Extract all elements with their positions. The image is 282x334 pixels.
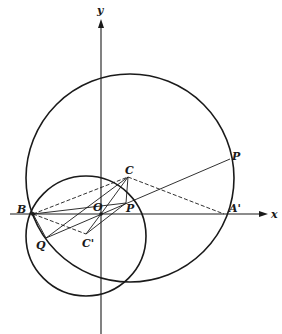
- label-O: O: [93, 201, 103, 214]
- label-x-axis: x: [270, 208, 278, 221]
- segment-C-P: [126, 177, 128, 203]
- y-axis-arrow-icon: [98, 19, 104, 28]
- label-B: B: [16, 203, 26, 216]
- point-B: [31, 212, 35, 216]
- label-P-small: P: [125, 202, 135, 215]
- label-A-prime: A': [228, 202, 241, 215]
- label-Q: Q: [36, 239, 46, 252]
- label-C: C: [125, 164, 134, 177]
- label-P-large: P: [231, 150, 241, 163]
- x-axis-arrow-icon: [259, 211, 268, 217]
- geometry-figure: y x B O P C C' Q A' P: [0, 0, 282, 334]
- label-y-axis: y: [96, 4, 105, 17]
- segment-B-Q: [33, 214, 46, 238]
- label-C-prime: C': [82, 237, 94, 250]
